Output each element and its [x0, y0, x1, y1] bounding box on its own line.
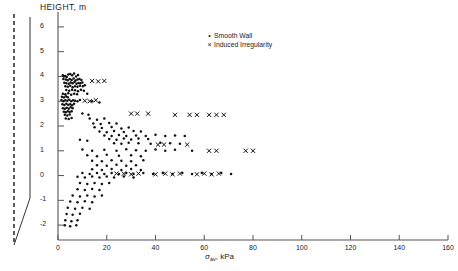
data-point-smooth-wall: [81, 207, 84, 210]
data-point-smooth-wall: [169, 142, 172, 145]
data-point-smooth-wall: [191, 173, 194, 176]
y-tick-label-3: 3: [40, 96, 44, 103]
data-point-smooth-wall: [184, 135, 187, 138]
data-point-induced-irregularity: [156, 142, 160, 146]
data-point-smooth-wall: [67, 92, 70, 95]
y-tick-label-4: 4: [40, 71, 44, 78]
data-point-smooth-wall: [130, 138, 133, 141]
data-point-smooth-wall: [91, 201, 94, 204]
data-point-smooth-wall: [103, 134, 106, 137]
chart-canvas: [0, 0, 458, 271]
data-point-smooth-wall: [91, 175, 94, 178]
data-point-smooth-wall: [64, 224, 67, 227]
plot-axes: [58, 12, 448, 240]
data-point-smooth-wall: [67, 86, 70, 89]
data-point-smooth-wall: [80, 79, 83, 82]
data-point-induced-irregularity: [162, 142, 166, 146]
data-point-induced-irregularity: [146, 112, 150, 116]
x-tick-label-160: 160: [438, 244, 458, 251]
y-tick-label-2: 2: [40, 121, 44, 128]
data-point-smooth-wall: [84, 189, 87, 192]
data-point-smooth-wall: [70, 94, 73, 97]
data-point-induced-irregularity: [207, 149, 211, 153]
x-tick-label-20: 20: [97, 244, 117, 251]
data-point-smooth-wall: [71, 213, 74, 216]
data-point-induced-irregularity: [173, 113, 177, 117]
y-tick-label-5: 5: [40, 47, 44, 54]
data-point-smooth-wall: [135, 149, 138, 152]
data-point-smooth-wall: [86, 183, 89, 186]
data-point-smooth-wall: [74, 208, 77, 211]
data-point-smooth-wall: [106, 153, 109, 156]
data-point-smooth-wall: [71, 86, 74, 89]
x-axis-ticks: [58, 235, 448, 240]
data-point-smooth-wall: [115, 122, 118, 125]
data-point-smooth-wall: [108, 122, 111, 125]
y-axis-ticks: [58, 27, 64, 225]
data-point-induced-irregularity: [214, 149, 218, 153]
data-point-smooth-wall: [145, 135, 148, 138]
data-point-smooth-wall: [123, 137, 126, 140]
data-point-smooth-wall: [79, 99, 82, 102]
data-point-smooth-wall: [76, 176, 79, 179]
data-point-smooth-wall: [83, 90, 86, 93]
data-point-induced-irregularity: [185, 142, 189, 146]
data-point-smooth-wall: [98, 130, 101, 133]
data-point-smooth-wall: [140, 155, 143, 158]
data-point-smooth-wall: [74, 99, 77, 102]
data-point-smooth-wall: [76, 100, 79, 103]
data-point-smooth-wall: [68, 90, 71, 93]
y-tick-label-1: 1: [40, 146, 44, 153]
data-point-smooth-wall: [142, 159, 145, 162]
data-point-smooth-wall: [91, 168, 94, 171]
data-point-smooth-wall: [115, 163, 118, 166]
y-tick-label--2: -2: [40, 220, 46, 227]
x-tick-label-60: 60: [194, 244, 214, 251]
data-point-induced-irregularity: [135, 112, 139, 116]
data-point-smooth-wall: [79, 138, 82, 141]
x-tick-label-80: 80: [243, 244, 263, 251]
data-point-induced-irregularity: [102, 79, 106, 83]
data-point-smooth-wall: [74, 85, 77, 88]
data-point-smooth-wall: [130, 160, 133, 163]
data-point-induced-irregularity: [129, 112, 133, 116]
data-point-smooth-wall: [66, 114, 69, 117]
data-point-smooth-wall: [73, 93, 76, 96]
data-point-smooth-wall: [127, 142, 130, 145]
data-point-smooth-wall: [91, 188, 94, 191]
data-point-smooth-wall: [149, 143, 152, 146]
data-point-smooth-wall: [81, 81, 84, 84]
data-point-induced-irregularity: [90, 79, 94, 83]
data-point-induced-irregularity: [83, 99, 87, 103]
data-point-smooth-wall: [179, 143, 182, 146]
data-point-smooth-wall: [101, 183, 104, 186]
data-point-smooth-wall: [76, 219, 79, 222]
data-point-smooth-wall: [132, 130, 135, 133]
data-point-smooth-wall: [127, 126, 130, 129]
data-point-smooth-wall: [72, 77, 75, 80]
data-point-smooth-wall: [123, 175, 126, 178]
data-point-smooth-wall: [113, 176, 116, 179]
wall-schematic: [14, 14, 30, 245]
data-point-smooth-wall: [137, 142, 140, 145]
data-point-induced-irregularity: [214, 113, 218, 117]
data-point-smooth-wall: [103, 117, 106, 120]
data-point-smooth-wall: [64, 85, 67, 88]
data-point-smooth-wall: [84, 84, 87, 87]
data-point-smooth-wall: [76, 93, 79, 96]
data-point-smooth-wall: [120, 127, 123, 130]
data-point-smooth-wall: [79, 85, 82, 88]
data-point-smooth-wall: [65, 213, 68, 216]
data-point-smooth-wall: [86, 140, 89, 143]
data-point-smooth-wall: [123, 131, 126, 134]
data-point-smooth-wall: [79, 182, 82, 185]
data-point-smooth-wall: [191, 150, 194, 153]
wall-profile-line: [14, 17, 30, 245]
data-point-smooth-wall: [81, 112, 84, 115]
data-point-smooth-wall: [154, 148, 157, 151]
data-point-smooth-wall: [132, 176, 135, 179]
data-point-smooth-wall: [76, 188, 79, 191]
data-point-smooth-wall: [88, 173, 91, 176]
data-point-smooth-wall: [87, 114, 90, 117]
data-point-smooth-wall: [118, 154, 121, 157]
